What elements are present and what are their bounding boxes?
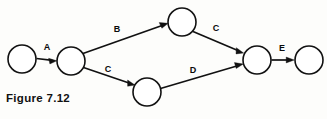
node-n4[interactable] bbox=[133, 78, 161, 106]
edge-c-upper-arrowhead bbox=[236, 48, 244, 54]
edge-label-d: D bbox=[190, 65, 197, 75]
edge-b-line bbox=[83, 25, 164, 54]
edge-a-arrowhead bbox=[49, 58, 57, 64]
node-n6[interactable] bbox=[295, 46, 323, 74]
node-n5[interactable] bbox=[243, 46, 271, 74]
edge-b bbox=[83, 23, 168, 54]
edge-d bbox=[161, 63, 244, 89]
edge-e-arrowhead bbox=[286, 57, 294, 63]
edge-label-e: E bbox=[279, 43, 285, 53]
figure-container: A B C C D E Figure 7.12 bbox=[0, 0, 327, 119]
edge-b-arrowhead bbox=[159, 23, 168, 29]
node-n1[interactable] bbox=[8, 45, 36, 73]
edge-label-b: B bbox=[114, 24, 121, 34]
edge-label-a: A bbox=[44, 42, 51, 52]
edge-a bbox=[37, 58, 57, 64]
edge-d-arrowhead bbox=[234, 63, 243, 69]
edge-c-upper bbox=[193, 32, 244, 54]
node-n2[interactable] bbox=[57, 47, 85, 75]
node-n3[interactable] bbox=[168, 8, 196, 36]
edge-e bbox=[272, 57, 295, 63]
figure-caption: Figure 7.12 bbox=[6, 92, 70, 104]
edge-label-c-upper: C bbox=[213, 23, 220, 33]
edge-d-line bbox=[161, 66, 239, 89]
edge-c-upper-line bbox=[193, 32, 239, 52]
edge-label-c-lower: C bbox=[105, 64, 112, 74]
